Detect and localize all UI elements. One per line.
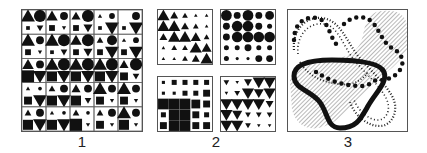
inverted-triangle-symbol <box>263 78 275 89</box>
circle-symbol <box>232 21 243 32</box>
triangle-symbol <box>97 110 104 116</box>
square-symbol <box>180 109 191 120</box>
square-symbol <box>97 49 103 55</box>
square-symbol <box>169 99 180 110</box>
inverted-triangle-symbol <box>245 123 251 128</box>
circle-symbol <box>132 12 140 20</box>
panel-2-triangles <box>157 9 213 65</box>
square-symbol <box>24 97 32 105</box>
circle-symbol <box>34 10 46 22</box>
triangle-symbol <box>22 34 35 46</box>
square-symbol <box>161 112 166 117</box>
circle-symbol <box>108 85 116 93</box>
inverted-triangle-symbol <box>38 51 42 55</box>
circle-symbol <box>221 10 232 21</box>
triangle-symbol <box>71 84 80 92</box>
triangle-symbol <box>181 22 189 29</box>
inverted-triangle-symbol <box>57 95 71 107</box>
circle-symbol <box>36 60 44 68</box>
triangle-symbol <box>49 85 56 91</box>
inverted-triangle-symbol <box>254 89 264 98</box>
circle-symbol <box>245 44 252 51</box>
square-symbol <box>121 49 127 55</box>
inverted-triangle-symbol <box>221 99 233 110</box>
triangle-symbol <box>71 12 80 20</box>
inverted-triangle-symbol <box>83 49 92 57</box>
triangle-symbol <box>204 34 210 39</box>
square-symbol <box>47 120 57 130</box>
inverted-triangle-symbol <box>129 47 142 59</box>
triangle-symbol <box>171 45 177 50</box>
triangle-symbol <box>182 13 188 18</box>
square-symbol <box>71 71 81 81</box>
inverted-triangle-symbol <box>231 99 243 110</box>
inverted-triangle-symbol <box>263 88 275 99</box>
square-symbol <box>173 92 176 95</box>
square-symbol <box>47 71 57 81</box>
square-symbol <box>162 92 165 95</box>
triangle-symbol <box>22 10 35 21</box>
square-symbol <box>183 91 188 96</box>
triangle-symbol <box>117 106 131 118</box>
triangle-symbol <box>119 60 128 68</box>
inverted-triangle-symbol <box>253 78 265 89</box>
inverted-triangle-symbol <box>129 23 142 35</box>
inverted-triangle-symbol <box>242 99 254 110</box>
circle-symbol <box>38 87 42 91</box>
circle-symbol <box>224 45 229 50</box>
triangle-symbol <box>194 14 198 17</box>
square-grid <box>158 77 212 131</box>
inverted-triangle-symbol <box>244 79 252 86</box>
triangle-symbol <box>205 24 209 27</box>
circle-symbol <box>246 57 249 60</box>
circle-symbol <box>243 10 254 21</box>
triangle-symbol <box>168 20 180 31</box>
inverted-triangle-symbol <box>242 88 254 99</box>
square-symbol <box>203 122 210 129</box>
square-symbol <box>119 120 129 130</box>
inverted-triangle-symbol <box>110 99 114 103</box>
panel-3-label: 3 <box>338 133 358 150</box>
square-symbol <box>204 112 209 117</box>
panel-2-circles <box>220 9 276 65</box>
square-symbol <box>50 50 54 54</box>
inverted-triangle-symbol <box>253 99 265 110</box>
square-symbol <box>98 26 102 30</box>
triangle-symbol <box>158 20 170 31</box>
square-symbol <box>22 70 34 82</box>
circle-symbol <box>82 58 94 70</box>
square-symbol <box>96 121 104 129</box>
circle-symbol <box>36 36 44 44</box>
square-symbol <box>193 91 198 96</box>
inverted-triangle-symbol <box>221 110 233 121</box>
square-symbol <box>172 80 177 85</box>
triangle-symbol <box>202 43 212 52</box>
circle-symbol <box>224 56 229 61</box>
circle-symbol <box>82 34 94 46</box>
inverted-triangle-symbol <box>85 98 92 104</box>
inverted-triangle-symbol <box>266 101 274 108</box>
circle-symbol <box>132 109 140 117</box>
square-symbol <box>203 101 210 108</box>
panel-1-symbols <box>22 10 142 131</box>
circle-symbol <box>108 109 116 117</box>
circle-symbol <box>235 45 240 50</box>
triangle-symbol <box>179 31 191 42</box>
triangle-symbol <box>73 110 80 116</box>
circle-symbol <box>60 12 68 20</box>
circle-symbol <box>253 32 264 43</box>
circle-symbol <box>133 37 139 43</box>
triangle-symbol <box>172 57 176 60</box>
inverted-triangle-symbol <box>256 113 262 118</box>
circle-symbol <box>60 85 68 93</box>
square-symbol <box>73 49 79 55</box>
triangle-symbol <box>162 57 166 60</box>
square-symbol <box>120 72 128 80</box>
inverted-triangle-symbol <box>221 121 233 131</box>
square-symbol <box>95 71 105 81</box>
inverted-triangle-symbol <box>83 24 92 32</box>
triangle-symbol <box>117 82 131 94</box>
inverted-triangle-symbol <box>105 23 119 35</box>
circle-grid <box>221 10 275 64</box>
panel-1-label: 1 <box>72 133 92 150</box>
